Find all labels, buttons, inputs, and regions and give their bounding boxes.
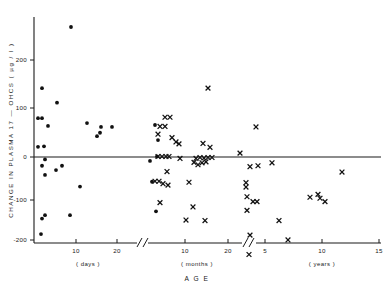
- data-point-cross: [323, 199, 328, 204]
- data-point-cross: [158, 200, 163, 205]
- data-point-cross: [248, 233, 253, 238]
- data-point-circle: [43, 173, 47, 177]
- x-tick-label-years-5: 5: [263, 247, 267, 254]
- data-point-cross: [156, 132, 161, 137]
- x-unit-label-months: ( months ): [181, 261, 213, 267]
- data-point-cross: [163, 124, 168, 129]
- data-point-cross: [254, 125, 259, 130]
- data-point-cross: [208, 145, 213, 150]
- data-point-circle: [55, 101, 59, 105]
- y-tick-label-0: 0: [23, 153, 27, 160]
- data-point-cross: [245, 194, 250, 199]
- scatter-plot-figure: 200 100 0 -100 -200 10 20 ( days ) 10 20…: [0, 0, 391, 294]
- data-point-circle: [69, 25, 73, 29]
- data-point-circle: [43, 213, 47, 217]
- data-point-circle: [54, 168, 58, 172]
- data-point-circle: [40, 164, 44, 168]
- axis-break-slash-1a: [137, 238, 142, 247]
- data-point-cross: [245, 208, 250, 213]
- x-unit-label-years: ( years ): [309, 261, 336, 267]
- data-point-circle: [36, 145, 40, 149]
- y-tick-group: 200 100 0 -100 -200: [13, 56, 34, 243]
- x-tick-label-days-10: 10: [72, 247, 80, 254]
- data-point-cross: [247, 252, 252, 257]
- data-point-circle: [78, 185, 82, 189]
- data-point-cross: [244, 180, 249, 185]
- y-tick-label-100: 100: [16, 104, 27, 111]
- data-point-circle: [154, 209, 158, 213]
- data-point-cross: [238, 151, 243, 156]
- data-point-circle: [148, 159, 152, 163]
- data-point-cross: [340, 170, 345, 175]
- x-tick-label-months-20: 20: [224, 247, 232, 254]
- data-point-circle: [39, 232, 43, 236]
- data-point-cross: [170, 135, 175, 140]
- data-point-cross: [206, 86, 211, 91]
- data-point-circle: [40, 86, 44, 90]
- y-tick-label-neg100: -100: [13, 196, 27, 203]
- axis-break-slash-2a: [243, 238, 248, 247]
- x-tick-label-years-10: 10: [318, 247, 326, 254]
- y-tick-label-200: 200: [16, 56, 27, 63]
- data-point-cross: [255, 199, 260, 204]
- data-marker-layer: [36, 25, 344, 257]
- axis-break-slash-1b: [143, 238, 148, 247]
- data-point-circle: [40, 116, 44, 120]
- data-point-circle: [153, 123, 157, 127]
- data-point-cross: [187, 180, 192, 185]
- y-tick-label-neg200: -200: [13, 236, 27, 243]
- data-point-cross: [158, 124, 163, 129]
- data-point-circle: [43, 158, 47, 162]
- axes-group: [34, 17, 381, 243]
- x-unit-label-days: ( days ): [76, 261, 100, 267]
- plot-canvas: 200 100 0 -100 -200 10 20 ( days ) 10 20…: [0, 0, 391, 294]
- data-point-cross: [286, 238, 291, 243]
- data-point-cross: [165, 169, 170, 174]
- data-point-cross: [270, 160, 275, 165]
- data-point-circle: [60, 164, 64, 168]
- data-point-cross: [166, 183, 171, 188]
- data-point-circle: [68, 213, 72, 217]
- data-point-circle: [99, 125, 103, 129]
- data-point-circle: [156, 138, 160, 142]
- axis-break-slash-2b: [249, 238, 254, 247]
- data-point-cross: [203, 218, 208, 223]
- data-point-circle: [85, 121, 89, 125]
- data-point-cross: [191, 205, 196, 210]
- data-point-circle: [98, 131, 102, 135]
- data-point-circle: [95, 134, 99, 138]
- data-point-cross: [184, 218, 189, 223]
- x-axis-title: A G E: [184, 275, 209, 282]
- data-point-circle: [110, 125, 114, 129]
- data-point-circle: [46, 124, 50, 128]
- y-axis-title: CHANGE IN PLASMA 17 — OHCS ( µg / l ): [7, 42, 14, 217]
- data-point-circle: [36, 116, 40, 120]
- data-point-cross: [201, 141, 206, 146]
- data-point-cross: [163, 115, 168, 120]
- data-point-cross: [168, 115, 173, 120]
- data-point-circle: [42, 144, 46, 148]
- x-tick-label-years-15: 15: [375, 247, 383, 254]
- data-point-cross: [308, 195, 313, 200]
- data-point-cross: [248, 164, 253, 169]
- x-tick-label-months-10: 10: [181, 247, 189, 254]
- x-tick-label-days-20: 20: [113, 247, 121, 254]
- data-point-circle: [40, 217, 44, 221]
- data-point-cross: [277, 218, 282, 223]
- data-point-cross: [244, 185, 249, 190]
- data-point-cross: [256, 163, 261, 168]
